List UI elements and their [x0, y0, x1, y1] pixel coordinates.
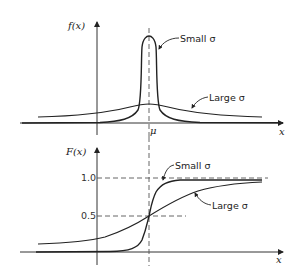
pdf-x-label: x [279, 126, 285, 137]
cdf-y-label: F(x) [65, 146, 86, 157]
pdf-small-sigma-label: Small σ [180, 33, 215, 44]
cdf-large-sigma-label: Large σ [212, 200, 248, 211]
pdf-small-sigma-curve [22, 36, 283, 123]
cdf-plot: F(x) 1.0 0.5 x Small σ Large σ [20, 137, 283, 266]
cdf-tick-0-5: 0.5 [81, 210, 96, 221]
pdf-mean-label: μ [150, 125, 157, 136]
cdf-x-label: x [276, 254, 282, 265]
pdf-large-sigma-curve [38, 104, 262, 117]
cdf-tick-1: 1.0 [81, 172, 96, 183]
pdf-plot: f(x) μ x Small σ Large σ [20, 20, 285, 137]
pdf-large-sigma-label: Large σ [209, 92, 245, 103]
pdf-small-sigma-leader [159, 38, 179, 49]
normal-distribution-diagram: f(x) μ x Small σ Large σ [0, 0, 295, 278]
cdf-small-sigma-label: Small σ [175, 160, 210, 171]
pdf-y-label: f(x) [67, 20, 85, 31]
pdf-large-sigma-leader [192, 97, 208, 108]
cdf-large-sigma-leader [195, 193, 211, 205]
diagram-svg: f(x) μ x Small σ Large σ [0, 0, 295, 278]
